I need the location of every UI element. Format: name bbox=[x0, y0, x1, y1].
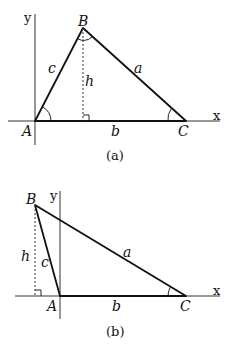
vertex-c-label: C bbox=[178, 123, 189, 139]
vertex-b-label: B bbox=[25, 191, 36, 207]
triangle-diagrams: y x B A C c a b h (a) B y x h c a A b C … bbox=[0, 0, 235, 346]
vertex-c-label: C bbox=[180, 298, 191, 314]
angle-c-arc bbox=[168, 287, 171, 296]
caption-b: (b) bbox=[106, 324, 124, 339]
side-c-label: c bbox=[41, 254, 49, 270]
vertex-b-label: B bbox=[77, 13, 88, 29]
angle-c-arc bbox=[168, 109, 171, 121]
side-a-label: a bbox=[134, 60, 142, 76]
figure-b: B y x h c a A b C (b) bbox=[15, 188, 221, 339]
height-label: h bbox=[85, 73, 94, 89]
x-axis-label: x bbox=[213, 108, 221, 123]
triangle-abc bbox=[35, 205, 186, 296]
y-axis-label: y bbox=[49, 188, 58, 203]
side-a-label: a bbox=[123, 244, 131, 260]
x-axis-label: x bbox=[213, 283, 221, 298]
angle-a-arc bbox=[42, 107, 51, 121]
triangle-abc bbox=[35, 28, 186, 121]
right-angle-marker bbox=[35, 290, 41, 296]
side-b-label: b bbox=[111, 123, 120, 139]
y-axis-label: y bbox=[23, 10, 32, 25]
caption-a: (a) bbox=[106, 148, 124, 163]
height-label: h bbox=[21, 248, 30, 264]
side-c-label: c bbox=[48, 60, 56, 76]
vertex-a-label: A bbox=[45, 298, 57, 314]
vertex-a-label: A bbox=[20, 123, 32, 139]
side-b-label: b bbox=[112, 298, 121, 314]
figure-a: y x B A C c a b h (a) bbox=[8, 10, 221, 163]
angle-b-arc bbox=[78, 37, 93, 40]
